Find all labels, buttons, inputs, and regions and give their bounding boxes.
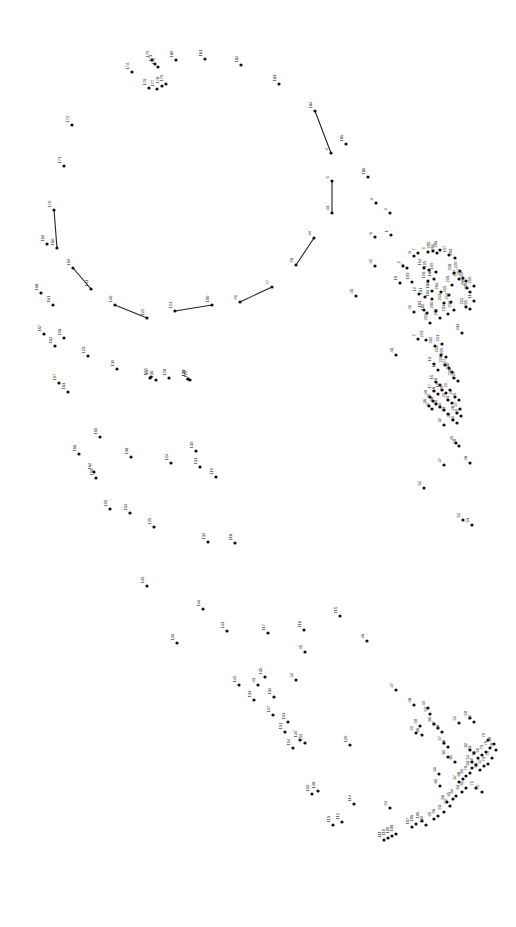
puzzle-dot[interactable]: [294, 263, 297, 266]
puzzle-dot[interactable]: [410, 825, 413, 828]
puzzle-dot[interactable]: [128, 511, 131, 514]
puzzle-dot[interactable]: [354, 294, 357, 297]
puzzle-dot[interactable]: [108, 507, 111, 510]
puzzle-dot[interactable]: [45, 242, 48, 245]
puzzle-dot[interactable]: [313, 109, 316, 112]
puzzle-dot[interactable]: [160, 84, 163, 87]
puzzle-dot[interactable]: [294, 678, 297, 681]
puzzle-dot[interactable]: [468, 290, 471, 293]
puzzle-dot[interactable]: [286, 720, 289, 723]
puzzle-dot[interactable]: [388, 806, 391, 809]
puzzle-dot[interactable]: [472, 284, 475, 287]
puzzle-dot[interactable]: [55, 246, 58, 249]
puzzle-dot[interactable]: [77, 452, 80, 455]
puzzle-dot[interactable]: [480, 790, 483, 793]
puzzle-dot[interactable]: [338, 614, 341, 617]
puzzle-dot[interactable]: [71, 266, 74, 269]
puzzle-dot[interactable]: [486, 762, 489, 765]
puzzle-dot[interactable]: [446, 312, 449, 315]
puzzle-dot[interactable]: [460, 331, 463, 334]
puzzle-dot[interactable]: [303, 741, 306, 744]
puzzle-dot[interactable]: [316, 789, 319, 792]
puzzle-dot[interactable]: [291, 746, 294, 749]
puzzle-dot[interactable]: [155, 87, 158, 90]
puzzle-dot[interactable]: [412, 703, 415, 706]
puzzle-dot[interactable]: [432, 277, 435, 280]
puzzle-dot[interactable]: [145, 316, 148, 319]
puzzle-dot[interactable]: [98, 435, 101, 438]
puzzle-dot[interactable]: [39, 291, 42, 294]
puzzle-dot[interactable]: [344, 142, 347, 145]
puzzle-dot[interactable]: [62, 336, 65, 339]
puzzle-dot[interactable]: [382, 838, 385, 841]
puzzle-dot[interactable]: [238, 300, 241, 303]
puzzle-dot[interactable]: [453, 760, 456, 763]
puzzle-dot[interactable]: [470, 523, 473, 526]
puzzle-dot[interactable]: [440, 730, 443, 733]
puzzle-dot[interactable]: [448, 804, 451, 807]
puzzle-dot[interactable]: [455, 421, 458, 424]
puzzle-dot[interactable]: [283, 730, 286, 733]
puzzle-dot[interactable]: [430, 407, 433, 410]
puzzle-dot[interactable]: [130, 70, 133, 73]
puzzle-dot[interactable]: [390, 834, 393, 837]
puzzle-dot[interactable]: [348, 743, 351, 746]
puzzle-dot[interactable]: [398, 281, 401, 284]
puzzle-dot[interactable]: [386, 836, 389, 839]
puzzle-dot[interactable]: [277, 82, 280, 85]
puzzle-dot[interactable]: [494, 748, 497, 751]
puzzle-dot[interactable]: [405, 266, 408, 269]
puzzle-dot[interactable]: [113, 303, 116, 306]
puzzle-dot[interactable]: [271, 713, 274, 716]
puzzle-dot[interactable]: [446, 745, 449, 748]
puzzle-dot[interactable]: [420, 733, 423, 736]
puzzle-dot[interactable]: [457, 398, 460, 401]
puzzle-dot[interactable]: [432, 817, 435, 820]
puzzle-dot[interactable]: [394, 353, 397, 356]
puzzle-dot[interactable]: [89, 287, 92, 290]
puzzle-dot[interactable]: [436, 392, 439, 395]
puzzle-dot[interactable]: [340, 820, 343, 823]
puzzle-dot[interactable]: [412, 310, 415, 313]
puzzle-dot[interactable]: [480, 753, 483, 756]
puzzle-dot[interactable]: [389, 233, 392, 236]
puzzle-dot[interactable]: [414, 822, 417, 825]
puzzle-dot[interactable]: [174, 58, 177, 61]
puzzle-dot[interactable]: [115, 367, 118, 370]
puzzle-dot[interactable]: [169, 461, 172, 464]
puzzle-dot[interactable]: [329, 151, 332, 154]
puzzle-dot[interactable]: [457, 721, 460, 724]
puzzle-dot[interactable]: [86, 354, 89, 357]
puzzle-dot[interactable]: [270, 285, 273, 288]
puzzle-dot[interactable]: [237, 683, 240, 686]
puzzle-dot[interactable]: [312, 236, 315, 239]
puzzle-dot[interactable]: [373, 264, 376, 267]
puzzle-dot[interactable]: [366, 175, 369, 178]
puzzle-dot[interactable]: [252, 698, 255, 701]
puzzle-dot[interactable]: [428, 712, 431, 715]
puzzle-dot[interactable]: [256, 683, 259, 686]
puzzle-dot[interactable]: [442, 301, 445, 304]
puzzle-dot[interactable]: [175, 641, 178, 644]
puzzle-dot[interactable]: [418, 724, 421, 727]
puzzle-dot[interactable]: [412, 254, 415, 257]
puzzle-dot[interactable]: [156, 65, 159, 68]
puzzle-dot[interactable]: [203, 57, 206, 60]
puzzle-dot[interactable]: [263, 675, 266, 678]
puzzle-dot[interactable]: [452, 308, 455, 311]
puzzle-dot[interactable]: [451, 797, 454, 800]
puzzle-dot[interactable]: [459, 414, 462, 417]
puzzle-dot[interactable]: [302, 628, 305, 631]
puzzle-dot[interactable]: [373, 235, 376, 238]
puzzle-dot[interactable]: [167, 376, 170, 379]
puzzle-dot[interactable]: [422, 486, 425, 489]
puzzle-dot[interactable]: [198, 465, 201, 468]
puzzle-dot[interactable]: [129, 455, 132, 458]
puzzle-dot[interactable]: [457, 444, 460, 447]
puzzle-dot[interactable]: [468, 461, 471, 464]
puzzle-dot[interactable]: [388, 211, 391, 214]
puzzle-dot[interactable]: [51, 303, 54, 306]
puzzle-dot[interactable]: [416, 251, 419, 254]
puzzle-dot[interactable]: [214, 475, 217, 478]
puzzle-dot[interactable]: [394, 832, 397, 835]
